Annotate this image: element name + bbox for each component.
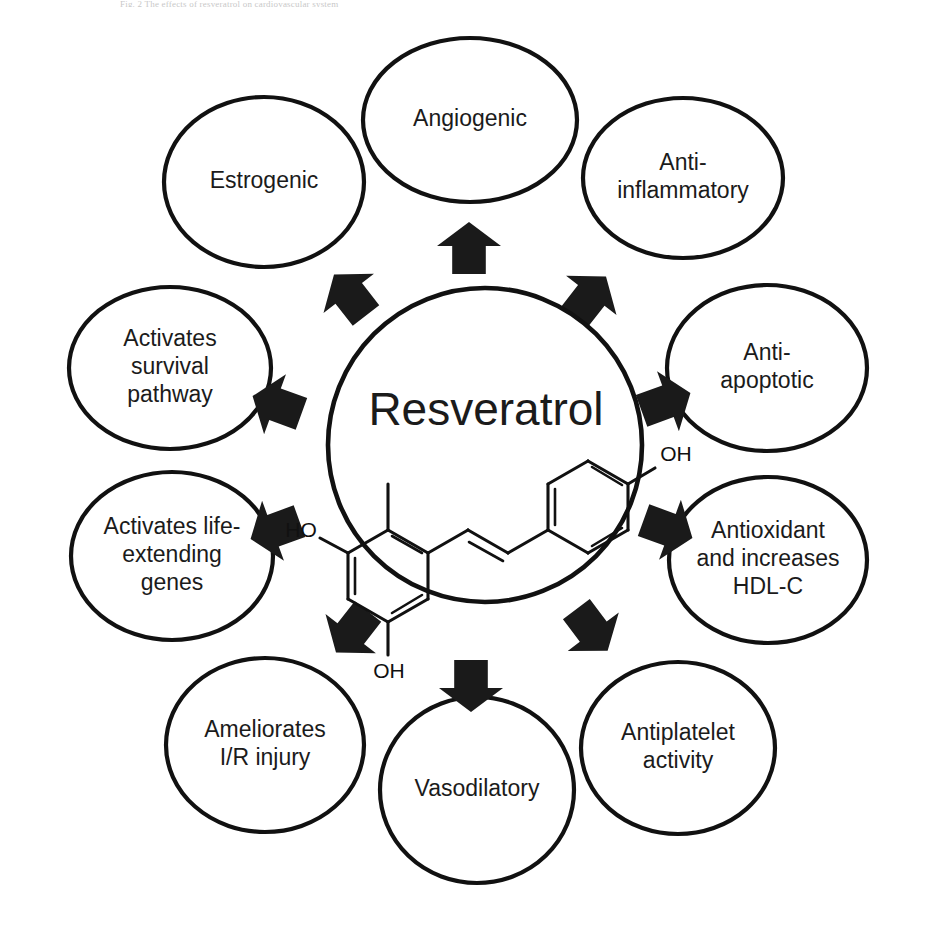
node-angiogenic[interactable]: Angiogenic <box>363 38 577 202</box>
node-survival-pathway[interactable]: Activatessurvivalpathway <box>69 287 271 449</box>
node-vasodilatory[interactable]: Vasodilatory <box>380 697 574 883</box>
node-label-life-extending: genes <box>141 569 204 595</box>
node-label-antioxidant-hdl: Antioxidant <box>711 517 825 543</box>
node-label-ameliorates-ir: Ameliorates <box>204 716 325 742</box>
diagram-root: Fig. 2 The effects of resveratrol on car… <box>0 0 943 928</box>
node-label-anti-inflammatory: Anti- <box>659 149 706 175</box>
molecule-label-oh-right: OH <box>660 442 692 465</box>
node-label-life-extending: extending <box>122 541 222 567</box>
node-label-survival-pathway: survival <box>131 353 209 379</box>
node-life-extending[interactable]: Activates life-extendinggenes <box>71 472 273 640</box>
node-label-angiogenic: Angiogenic <box>413 105 527 131</box>
node-anti-apoptotic[interactable]: Anti-apoptotic <box>667 285 867 451</box>
node-label-estrogenic: Estrogenic <box>210 167 319 193</box>
center-label: Resveratrol <box>368 383 603 435</box>
arrow-to-estrogenic <box>309 255 391 335</box>
node-label-survival-pathway: pathway <box>127 381 213 407</box>
node-label-antioxidant-hdl: HDL-C <box>733 573 803 599</box>
node-label-survival-pathway: Activates <box>123 325 216 351</box>
node-label-anti-apoptotic: apoptotic <box>720 367 813 393</box>
center-circle[interactable] <box>328 288 642 602</box>
node-label-vasodilatory: Vasodilatory <box>415 775 540 801</box>
arrow-to-angiogenic <box>437 222 501 274</box>
node-ameliorates-ir[interactable]: AmelioratesI/R injury <box>166 658 364 832</box>
node-label-ameliorates-ir: I/R injury <box>220 744 311 770</box>
node-label-antiplatelet: activity <box>643 747 714 773</box>
resveratrol-effects-diagram: AngiogenicAnti-inflammatoryAnti-apoptoti… <box>0 0 943 928</box>
molecule-label-oh-bottom: OH <box>373 659 405 682</box>
arrow-to-antiplatelet <box>551 590 633 670</box>
node-label-anti-inflammatory: inflammatory <box>617 177 749 203</box>
node-anti-inflammatory[interactable]: Anti-inflammatory <box>583 98 783 258</box>
node-label-life-extending: Activates life- <box>104 513 241 539</box>
molecule-label-ho: HO <box>285 518 317 541</box>
node-antiplatelet[interactable]: Antiplateletactivity <box>581 662 775 834</box>
node-label-anti-apoptotic: Anti- <box>743 339 790 365</box>
node-label-antiplatelet: Antiplatelet <box>621 719 735 745</box>
node-label-antioxidant-hdl: and increases <box>696 545 839 571</box>
node-antioxidant-hdl[interactable]: Antioxidantand increasesHDL-C <box>669 477 867 643</box>
node-estrogenic[interactable]: Estrogenic <box>164 97 364 267</box>
